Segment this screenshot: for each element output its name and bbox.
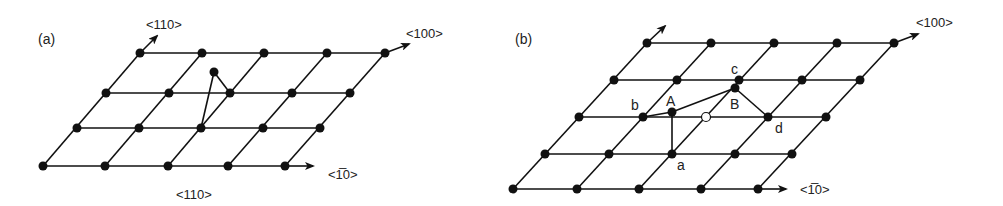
lattice-atom: [381, 49, 390, 58]
lattice-atom: [668, 150, 677, 159]
lattice-atom: [731, 150, 740, 159]
bond-line: [672, 88, 735, 112]
lattice-atom: [788, 150, 797, 159]
lattice-column-line: [43, 53, 140, 166]
direction-label: <1̅0>: [800, 182, 830, 197]
panel-b: (b)<100><1̅0>ABabcd: [509, 15, 953, 197]
site-label: B: [730, 96, 739, 112]
direction-label: <110>: [146, 17, 182, 32]
lattice-column-line: [285, 53, 385, 166]
lattice-atom: [575, 113, 584, 122]
lattice-atom: [673, 76, 682, 85]
lattice-atom: [136, 49, 145, 58]
lattice-atom: [288, 89, 297, 98]
direction-label: <1̅0>: [328, 167, 358, 182]
panel-label: (a): [38, 31, 55, 47]
lattice-atom: [890, 39, 899, 48]
lattice-atom: [259, 124, 268, 133]
lattice-atom: [707, 39, 716, 48]
lattice-atom: [73, 124, 82, 133]
lattice-atom: [541, 150, 550, 159]
site-label: b: [631, 97, 639, 113]
lattice-atom: [198, 49, 207, 58]
adatom: [210, 68, 219, 77]
lattice-atom: [770, 39, 779, 48]
lattice-atom: [509, 185, 518, 194]
lattice-column-line: [228, 53, 327, 166]
lattice-atom: [643, 39, 652, 48]
site-label: d: [775, 120, 783, 136]
bond-line: [735, 88, 768, 117]
direction-label: <100>: [916, 15, 953, 30]
lattice-atom: [605, 150, 614, 159]
vacancy-site: [702, 113, 711, 122]
lattice-atom: [102, 89, 111, 98]
lattice-atom: [346, 89, 355, 98]
panel-a: (a)<110><100><1̅0><110>: [38, 17, 443, 202]
lattice-atom: [833, 39, 842, 48]
lattice-atom: [610, 76, 619, 85]
lattice-atom: [323, 49, 332, 58]
direction-label: <100>: [406, 26, 443, 41]
lattice-atom: [164, 162, 173, 171]
direction-label: <110>: [176, 187, 212, 202]
lattice-atom: [822, 113, 831, 122]
lattice-atom: [39, 162, 48, 171]
lattice-atom: [197, 124, 206, 133]
site-label: c: [731, 61, 738, 77]
lattice-atom: [316, 124, 325, 133]
panel-label: (b): [515, 31, 532, 47]
lattice-atom: [697, 185, 706, 194]
lattice-atom: [260, 49, 269, 58]
lattice-atom: [226, 89, 235, 98]
lattice-atom: [281, 162, 290, 171]
site-label: a: [677, 157, 685, 173]
lattice-atom: [754, 185, 763, 194]
lattice-atom: [764, 113, 773, 122]
lattice-atom: [635, 185, 644, 194]
lattice-atom: [798, 76, 807, 85]
lattice-atom: [101, 162, 110, 171]
lattice-atom: [573, 185, 582, 194]
site-label: A: [666, 93, 676, 109]
lattice-atom: [165, 89, 174, 98]
figure-canvas: (a)<110><100><1̅0><110> (b)<100><1̅0>ABa…: [0, 0, 1003, 206]
adatom: [731, 84, 740, 93]
lattice-atom: [135, 124, 144, 133]
lattice-atom: [224, 162, 233, 171]
lattice-column-line: [105, 53, 202, 166]
lattice-atom: [639, 113, 648, 122]
lattice-atom: [856, 76, 865, 85]
